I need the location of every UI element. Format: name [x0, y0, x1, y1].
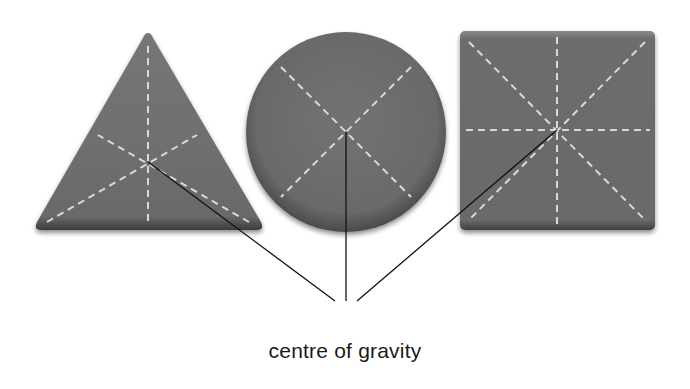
square-shape	[460, 31, 655, 230]
centre-of-gravity-diagram	[0, 0, 690, 389]
centre-of-gravity-label: centre of gravity	[0, 339, 690, 363]
triangle-shape	[36, 33, 262, 230]
